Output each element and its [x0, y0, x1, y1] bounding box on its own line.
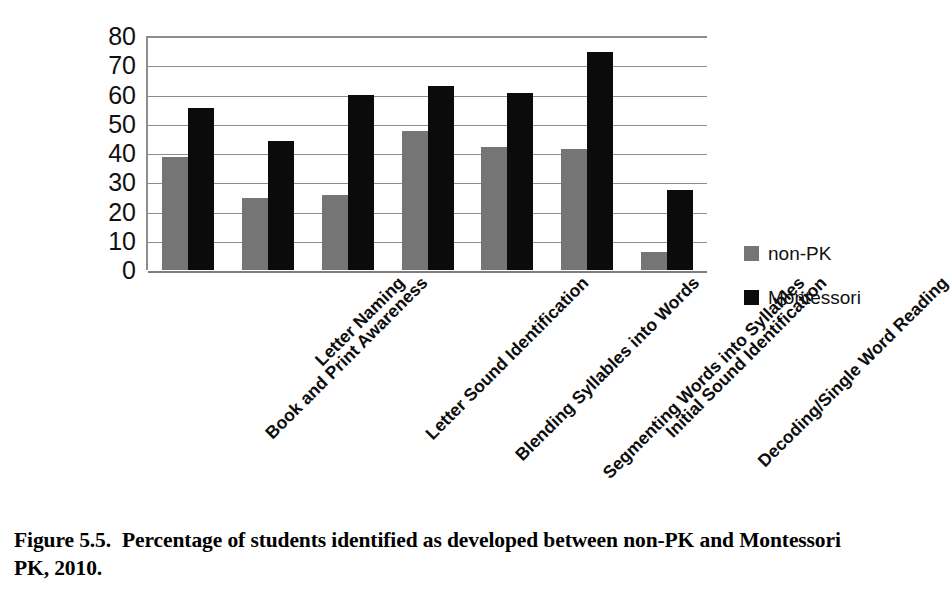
bar-group — [148, 37, 228, 270]
y-axis-tick-label: 60 — [108, 82, 136, 107]
bar-montessori[interactable] — [667, 190, 693, 270]
bar-non-pk[interactable] — [561, 149, 587, 270]
figure-caption: Figure 5.5.Percentage of students identi… — [14, 527, 869, 582]
square-swatch-black-icon — [744, 290, 759, 305]
bar-montessori[interactable] — [188, 108, 214, 270]
legend-item[interactable]: non-PK — [744, 242, 883, 264]
y-axis-tick-label: 40 — [108, 141, 136, 166]
bar-montessori[interactable] — [587, 52, 613, 270]
y-axis-tick-label: 0 — [122, 258, 136, 283]
bar-non-pk[interactable] — [242, 198, 268, 270]
bar-group — [308, 37, 388, 270]
y-axis: 80706050403020100 — [78, 26, 144, 272]
y-axis-tick-label: 50 — [108, 111, 136, 136]
legend-label: non-PK — [768, 244, 831, 263]
bar-non-pk[interactable] — [402, 131, 428, 270]
bar-non-pk[interactable] — [481, 147, 507, 270]
bar-group — [627, 37, 707, 270]
bar-montessori[interactable] — [268, 141, 294, 270]
axis-baseline — [148, 271, 707, 273]
bar-group — [547, 37, 627, 270]
bar-montessori[interactable] — [428, 86, 454, 270]
bar-non-pk[interactable] — [322, 195, 348, 270]
square-swatch-gray-icon — [744, 246, 759, 261]
y-axis-tick-label: 20 — [108, 199, 136, 224]
bar-group — [467, 37, 547, 270]
y-axis-tick-label: 30 — [108, 170, 136, 195]
bar-group — [228, 37, 308, 270]
bar-group — [388, 37, 468, 270]
plot-area — [146, 36, 707, 270]
y-axis-tick-label: 80 — [108, 24, 136, 49]
y-axis-tick-label: 70 — [108, 53, 136, 78]
bar-montessori[interactable] — [507, 93, 533, 270]
figure-caption-text: Percentage of students identified as dev… — [14, 528, 841, 580]
x-axis-label: Book and Print Awareness — [263, 274, 431, 442]
chart-legend: non-PKMontessori — [744, 242, 883, 330]
y-axis-tick-label: 10 — [108, 228, 136, 253]
x-axis-category-labels: Book and Print AwarenessLetter NamingLet… — [146, 274, 707, 494]
figure-number: Figure 5.5. — [14, 528, 111, 552]
legend-item[interactable]: Montessori — [744, 286, 883, 308]
legend-label: Montessori — [768, 288, 861, 307]
bar-series-container — [148, 37, 707, 270]
bar-montessori[interactable] — [348, 95, 374, 271]
bar-non-pk[interactable] — [641, 252, 667, 270]
bar-chart: 80706050403020100 Book and Print Awarene… — [0, 0, 883, 500]
bar-non-pk[interactable] — [162, 157, 188, 270]
